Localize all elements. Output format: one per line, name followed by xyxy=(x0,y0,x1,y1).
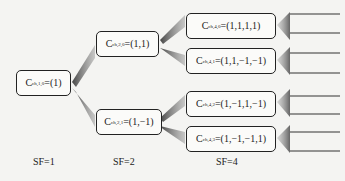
node-value: =(1,1) xyxy=(125,39,150,49)
sf-label-4: SF=4 xyxy=(216,156,238,167)
node-value: =(1,−1,1,−1) xyxy=(215,99,266,109)
node-subscript: ch,2,0 xyxy=(112,42,124,47)
node-subscript: ch,4,0 xyxy=(208,24,220,29)
node-value: =(1,1,−1,−1) xyxy=(215,56,266,66)
code-node-c-ch-2-0: Cch,2,0=(1,1) xyxy=(96,31,159,57)
node-letter: C xyxy=(202,21,209,31)
code-node-c-ch-4-0: Cch,4,0=(1,1,1,1) xyxy=(186,13,276,39)
node-subscript: ch,4,3 xyxy=(203,137,215,142)
node-letter: C xyxy=(106,39,113,49)
node-value: =(1,1,1,1) xyxy=(221,21,261,31)
node-letter: C xyxy=(25,78,32,88)
node-letter: C xyxy=(196,134,203,144)
node-letter: C xyxy=(104,117,111,127)
sf-label-2: SF=2 xyxy=(113,156,135,167)
node-subscript: ch,1,0 xyxy=(32,81,44,86)
code-node-c-ch-2-1: Cch,2,1=(1,−1) xyxy=(96,109,162,135)
node-value: =(1,−1,−1,1) xyxy=(215,134,266,144)
code-node-c-ch-4-2: Cch,4,2=(1,−1,1,−1) xyxy=(186,91,276,117)
code-node-c-ch-1-0: Cch,1,0=(1) xyxy=(16,70,71,96)
node-letter: C xyxy=(196,56,203,66)
node-letter: C xyxy=(196,99,203,109)
node-subscript: ch,4,1 xyxy=(203,59,215,64)
node-subscript: ch,2,1 xyxy=(111,120,123,125)
code-node-c-ch-4-1: Cch,4,1=(1,1,−1,−1) xyxy=(186,48,276,74)
node-value: =(1) xyxy=(44,78,61,88)
node-value: =(1,−1) xyxy=(123,117,153,127)
sf-label-1: SF=1 xyxy=(33,156,55,167)
code-node-c-ch-4-3: Cch,4,3=(1,−1,−1,1) xyxy=(186,126,276,152)
node-subscript: ch,4,2 xyxy=(203,102,215,107)
